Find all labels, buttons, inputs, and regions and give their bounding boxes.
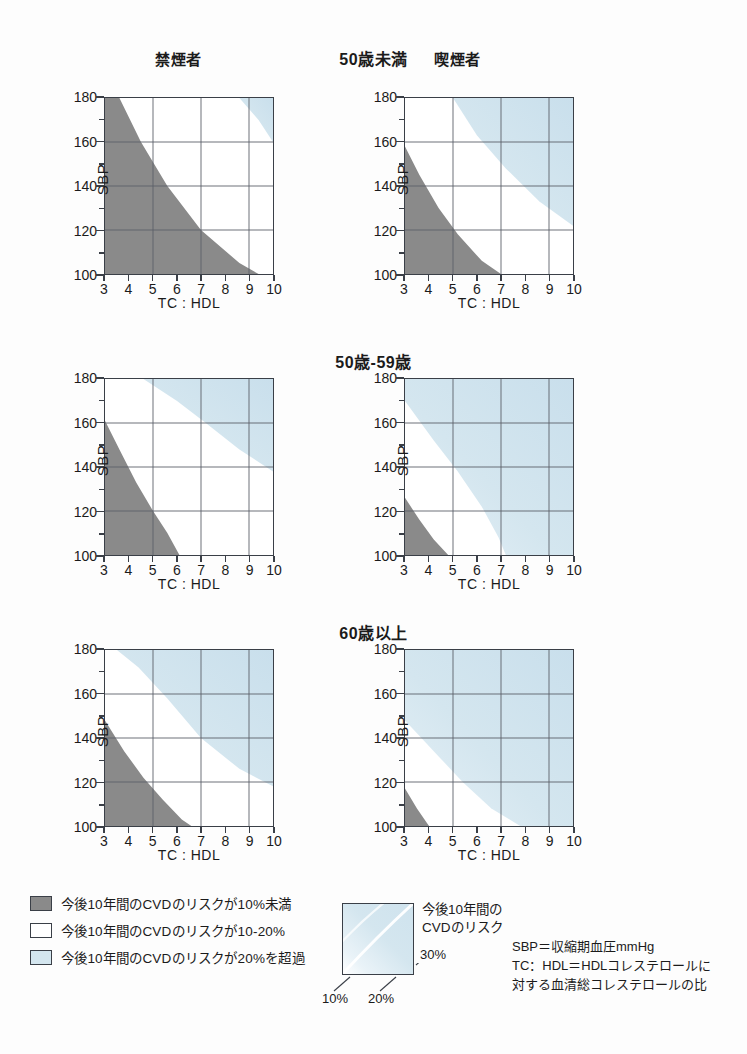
y-tick-mark [399,804,404,806]
x-tick-mark [152,275,154,281]
x-tick-mark [249,275,251,281]
gradient-caption: 今後10年間の CVDのリスク [422,901,503,937]
risk-chart-禁煙者-50歳未満 [104,97,274,275]
y-tick-mark [399,252,404,254]
x-tick-mark [525,827,527,833]
x-axis-label: TC : HDL [104,576,274,592]
x-tick-mark [476,275,478,281]
note-tchdl-1: TC：HDL＝HDLコレステロールに [512,957,711,976]
y-tick-mark [396,96,404,98]
y-tick-mark [96,648,104,650]
y-tick-label: 180 [74,641,97,657]
legend-label: 今後10年間のCVDのリスクが20%を超過 [61,947,305,967]
gradient-label-mid: 20% [368,991,394,1006]
x-tick-mark [103,827,105,833]
chart-panel: 100120140160180345678910SBPTC : HDL [330,637,582,877]
y-axis-label: SBP [94,401,111,521]
chart-panel: 100120140160180345678910SBPTC : HDL [330,85,582,325]
x-tick-mark [176,556,178,562]
x-tick-mark [176,827,178,833]
x-tick-mark [273,827,275,833]
x-axis-label: TC : HDL [404,295,574,311]
chart-panel: 100120140160180345678910SBPTC : HDL [30,637,282,877]
y-tick-label: 100 [374,819,397,835]
y-axis-label: SBP [394,120,411,240]
x-axis-label: TC : HDL [404,576,574,592]
x-tick-mark [176,275,178,281]
x-tick-mark [403,556,405,562]
y-tick-mark [396,377,404,379]
y-tick-mark [399,533,404,535]
x-tick-mark [428,827,430,833]
x-tick-mark [200,827,202,833]
x-tick-mark [500,275,502,281]
x-tick-mark [249,827,251,833]
y-tick-mark [396,648,404,650]
plot-area: 100120140160180345678910SBPTC : HDL [404,649,574,827]
x-tick-mark [573,275,575,281]
y-tick-mark [96,377,104,379]
x-tick-mark [200,556,202,562]
x-axis-label: TC : HDL [404,847,574,863]
x-tick-mark [225,556,227,562]
plot-area: 100120140160180345678910SBPTC : HDL [404,97,574,275]
risk-chart-禁煙者-60歳以上 [104,649,274,827]
plot-area: 100120140160180345678910SBPTC : HDL [104,649,274,827]
abbreviation-notes: SBP＝収縮期血圧mmHg TC：HDL＝HDLコレステロールに 対する血清総コ… [512,938,711,995]
plot-area: 100120140160180345678910SBPTC : HDL [404,378,574,556]
y-tick-label: 180 [374,89,397,105]
chart-panel: 100120140160180345678910SBPTC : HDL [30,85,282,325]
risk-regions [405,650,573,826]
legend-swatch-blue [30,950,52,965]
legend-label: 今後10年間のCVDのリスクが10%未満 [61,893,292,913]
x-tick-mark [500,556,502,562]
y-tick-mark [99,804,104,806]
y-tick-mark [99,252,104,254]
risk-regions [405,379,573,555]
risk-chart-喫煙者-50歳未満 [404,97,574,275]
x-tick-mark [273,275,275,281]
x-tick-mark [500,827,502,833]
y-tick-label: 100 [74,267,97,283]
x-tick-mark [103,275,105,281]
risk-legend: 今後10年間のCVDのリスクが10%未満今後10年間のCVDのリスクが10-20… [30,893,305,974]
x-tick-mark [573,556,575,562]
x-tick-mark [549,556,551,562]
x-tick-mark [200,275,202,281]
y-tick-label: 180 [374,370,397,386]
risk-chart-喫煙者-50歳-59歳 [404,378,574,556]
gradient-label-high: 30% [420,947,446,962]
gradient-label-low: 10% [322,991,348,1006]
x-tick-mark [128,556,130,562]
x-tick-mark [476,556,478,562]
legend-item: 今後10年間のCVDのリスクが10%未満 [30,893,305,913]
x-tick-mark [549,275,551,281]
gradient-caption-line1: 今後10年間の [422,901,503,919]
x-tick-mark [273,556,275,562]
plot-area: 100120140160180345678910SBPTC : HDL [104,97,274,275]
x-tick-mark [225,827,227,833]
x-tick-mark [573,827,575,833]
y-tick-label: 100 [374,548,397,564]
x-tick-mark [549,827,551,833]
legend-swatch-gray [30,896,52,911]
x-tick-mark [152,827,154,833]
x-tick-mark [152,556,154,562]
y-tick-label: 180 [74,370,97,386]
x-axis-label: TC : HDL [104,295,274,311]
y-tick-label: 100 [374,267,397,283]
legend-item: 今後10年間のCVDのリスクが10-20% [30,920,305,940]
risk-chart-喫煙者-60歳以上 [404,649,574,827]
y-tick-label: 100 [74,819,97,835]
risk-regions [405,98,573,274]
note-sbp: SBP＝収縮期血圧mmHg [512,938,711,957]
x-tick-mark [103,556,105,562]
chart-panel: 100120140160180345678910SBPTC : HDL [30,366,282,606]
y-axis-label: SBP [394,401,411,521]
x-tick-mark [476,827,478,833]
risk-chart-禁煙者-50歳-59歳 [104,378,274,556]
x-axis-label: TC : HDL [104,847,274,863]
x-tick-mark [128,827,130,833]
gradient-caption-line2: CVDのリスク [422,919,503,937]
risk-regions [105,379,273,555]
